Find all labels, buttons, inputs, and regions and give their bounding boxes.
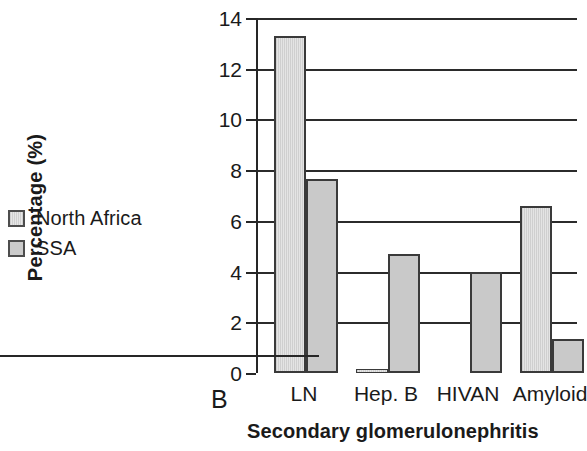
y-tick-mark xyxy=(246,272,256,274)
legend-label-north-africa: North Africa xyxy=(36,208,142,228)
y-tick-label: 8 xyxy=(230,160,242,181)
gridline xyxy=(258,18,577,20)
y-tick-mark xyxy=(246,221,256,223)
y-tick-mark xyxy=(246,69,256,71)
bar-amyloid-ssa xyxy=(552,339,584,373)
y-tick-label: 2 xyxy=(230,312,242,333)
bar-amyloid-north-africa xyxy=(520,206,552,373)
y-tick-mark xyxy=(246,322,256,324)
y-tick-label: 12 xyxy=(219,58,242,79)
y-tick-label: 4 xyxy=(230,261,242,282)
legend-swatch-north-africa-icon xyxy=(8,210,25,227)
y-tick-mark xyxy=(246,119,256,121)
x-axis-title: Secondary glomerulonephritis xyxy=(247,420,539,443)
x-axis-tick-labels: LNHep. BHIVANAmyloid xyxy=(0,381,575,411)
bar-hep-b-ssa xyxy=(388,254,420,373)
x-tick-label-hivan: HIVAN xyxy=(437,381,500,406)
y-tick-mark xyxy=(246,373,256,375)
x-tick-label-ln: LN xyxy=(291,381,318,406)
y-axis-title: Percentage (%) xyxy=(24,78,47,338)
y-tick-label: 6 xyxy=(230,210,242,231)
x-tick-label-amyloid: Amyloid xyxy=(513,381,587,406)
bar-hivan-ssa xyxy=(470,272,502,373)
y-tick-mark xyxy=(246,170,256,172)
y-tick-label: 14 xyxy=(219,8,242,29)
panel-label: B xyxy=(211,385,228,413)
x-tick-label-hep-b: Hep. B xyxy=(354,381,418,406)
bar-hep-b-north-africa xyxy=(356,369,388,373)
plot-area xyxy=(256,18,577,373)
bar-ln-north-africa xyxy=(274,36,306,373)
legend-swatch-ssa-icon xyxy=(8,240,25,257)
x-axis-baseline xyxy=(0,355,319,357)
bar-ln-ssa xyxy=(306,179,338,373)
y-tick-label: 10 xyxy=(219,109,242,130)
y-tick-mark xyxy=(246,18,256,20)
